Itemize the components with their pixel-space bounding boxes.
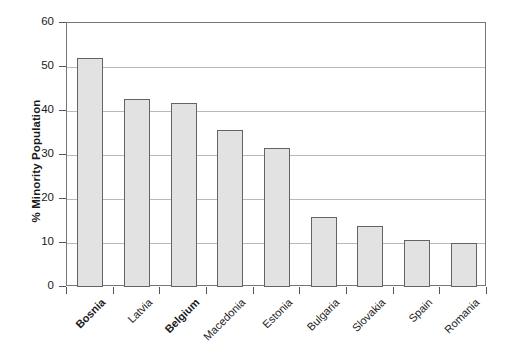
y-axis-tick-label: 60	[14, 16, 54, 28]
x-axis-tick	[486, 287, 487, 294]
bar	[77, 58, 103, 287]
y-axis-title: % Minority Population	[30, 61, 42, 261]
bar	[357, 226, 383, 287]
y-axis-tick	[59, 110, 66, 111]
bar	[217, 130, 243, 287]
x-axis-tick	[346, 287, 347, 294]
bar	[451, 243, 477, 287]
y-axis-tick	[59, 198, 66, 199]
y-axis-tick-label: 10	[14, 236, 54, 248]
y-axis-tick	[59, 286, 66, 287]
y-axis-tick	[59, 242, 66, 243]
bar	[404, 240, 430, 287]
y-axis-tick	[59, 22, 66, 23]
bar	[264, 148, 290, 287]
bar-chart: % Minority Population 0102030405060 Bosn…	[0, 0, 506, 357]
y-axis-tick-label: 0	[14, 280, 54, 292]
gridline	[67, 67, 485, 68]
bar	[311, 217, 337, 287]
plot-area	[66, 22, 486, 286]
x-axis-tick	[66, 287, 67, 294]
x-axis-tick	[159, 287, 160, 294]
y-axis-tick	[59, 66, 66, 67]
x-axis-label: Bosnia	[0, 296, 108, 357]
x-axis-tick	[299, 287, 300, 294]
y-axis-tick-label: 40	[14, 104, 54, 116]
x-axis-tick	[253, 287, 254, 294]
x-axis-tick	[393, 287, 394, 294]
x-axis-tick	[206, 287, 207, 294]
x-axis-tick	[113, 287, 114, 294]
y-axis-tick-label: 50	[14, 60, 54, 72]
y-axis-tick-label: 20	[14, 192, 54, 204]
x-axis-tick	[439, 287, 440, 294]
y-axis-tick	[59, 154, 66, 155]
y-axis-tick-label: 30	[14, 148, 54, 160]
bar	[124, 99, 150, 287]
bar	[171, 103, 197, 287]
